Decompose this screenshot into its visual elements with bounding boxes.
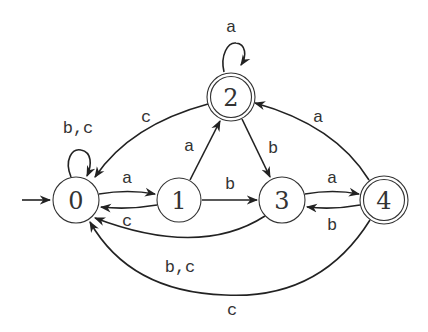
- edge-0-1: a: [99, 169, 155, 195]
- state-label-0: 0: [68, 187, 83, 215]
- edge-1-2: a: [184, 121, 220, 180]
- edge-label-loop0: b,c: [63, 119, 94, 138]
- edge-label-e01: a: [122, 169, 132, 188]
- edge-2-3: b: [242, 119, 278, 177]
- edge-label-e43: b: [327, 216, 337, 235]
- edge-label-e40: c: [227, 301, 237, 320]
- edge-2-2-loop: a: [223, 18, 245, 73]
- edge-4-3: b: [307, 205, 360, 235]
- state-4-accepting: 4: [360, 176, 408, 224]
- state-2-accepting: 2: [207, 73, 255, 121]
- state-label-2: 2: [223, 84, 238, 112]
- state-label-3: 3: [274, 187, 289, 215]
- edge-4-0: c: [90, 220, 370, 320]
- edge-3-0: b,c: [95, 216, 265, 277]
- edge-label-loop2: a: [226, 18, 236, 37]
- edge-label-e13: b: [225, 175, 235, 194]
- state-label-1: 1: [171, 187, 186, 215]
- edge-label-e42: a: [313, 108, 323, 127]
- edge-1-3: b: [202, 175, 257, 201]
- edge-label-e30: b,c: [165, 258, 196, 277]
- edge-0-0-loop: b,c: [63, 119, 94, 178]
- edge-1-0: c: [101, 205, 157, 231]
- edge-label-e12: a: [184, 137, 194, 156]
- state-1: 1: [157, 178, 201, 222]
- state-3: 3: [259, 177, 305, 223]
- state-0: 0: [53, 177, 99, 223]
- edge-label-e23: b: [268, 139, 278, 158]
- edge-3-4: a: [305, 169, 359, 195]
- automaton-diagram: b,c a a c a b c b a b: [0, 0, 428, 332]
- edge-label-e34: a: [327, 169, 337, 188]
- edge-label-e20: c: [141, 108, 151, 127]
- state-label-4: 4: [376, 187, 391, 215]
